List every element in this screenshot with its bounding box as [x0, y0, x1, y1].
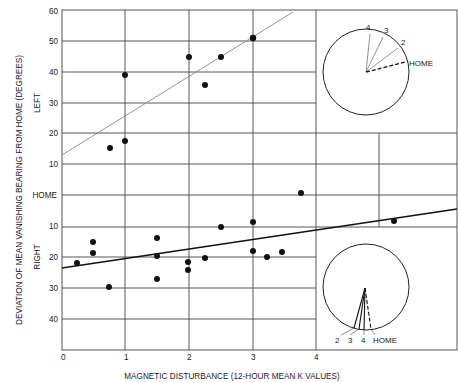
right-series-points	[74, 190, 397, 290]
compass-label: 2	[335, 336, 340, 345]
vertical-gridlines	[125, 10, 379, 350]
compass-label: 4	[361, 336, 366, 345]
svg-text:2: 2	[187, 353, 192, 362]
svg-text:0: 0	[61, 353, 66, 362]
svg-text:1: 1	[124, 353, 129, 362]
svg-text:HOME: HOME	[32, 191, 57, 200]
svg-text:60: 60	[49, 7, 59, 16]
compass-label: 3	[384, 26, 389, 35]
compass-label: HOME	[409, 59, 433, 68]
svg-text:30: 30	[49, 284, 59, 293]
left-compass-inset: 4 3 2 HOME	[323, 23, 433, 115]
svg-text:40: 40	[49, 68, 59, 77]
svg-text:3: 3	[251, 353, 256, 362]
scatter-chart: 4 3 2 HOME 2 3 4 HOME 60 50 40 30 20 10 …	[0, 0, 459, 383]
svg-text:20: 20	[49, 253, 59, 262]
y-axis-ticks: 60 50 40 30 20 10 HOME 10 20 30 40	[32, 7, 58, 324]
compass-label: 3	[348, 336, 353, 345]
right-trend-line	[62, 209, 457, 268]
compass-label: 4	[366, 23, 371, 32]
right-direction-label: RIGHT	[33, 244, 42, 269]
y-axis-title: DEVIATION OF MEAN VANISHING BEARING FROM…	[15, 55, 24, 325]
svg-text:20: 20	[49, 129, 59, 138]
x-axis-title: MAGNETIC DISTURBANCE (12-HOUR MEAN K VAL…	[124, 372, 340, 381]
svg-text:50: 50	[49, 37, 59, 46]
left-trend-line	[62, 12, 293, 155]
svg-text:30: 30	[49, 99, 59, 108]
svg-text:10: 10	[49, 160, 59, 169]
compass-label: 2	[401, 38, 406, 47]
svg-text:4: 4	[314, 353, 319, 362]
left-series-points	[107, 35, 256, 151]
left-direction-label: LEFT	[33, 93, 42, 113]
compass-label: HOME	[373, 336, 397, 345]
svg-text:10: 10	[49, 222, 59, 231]
svg-text:40: 40	[49, 315, 59, 324]
plot-frame	[62, 10, 457, 350]
right-compass-inset: 2 3 4 HOME	[323, 244, 409, 345]
horizontal-gridlines	[62, 41, 457, 319]
x-axis-ticks: 0 1 2 3 4	[61, 353, 319, 362]
